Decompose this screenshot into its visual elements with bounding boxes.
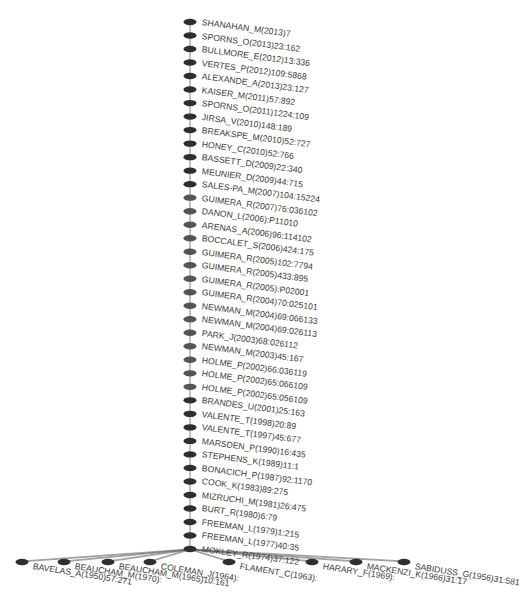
graph-node[interactable] bbox=[184, 546, 197, 552]
graph-node[interactable] bbox=[184, 113, 197, 119]
graph-node[interactable] bbox=[184, 330, 197, 336]
graph-node[interactable] bbox=[184, 465, 197, 471]
graph-node[interactable] bbox=[184, 19, 197, 25]
graph-node[interactable] bbox=[184, 100, 197, 106]
graph-node[interactable] bbox=[184, 73, 197, 79]
graph-node[interactable] bbox=[184, 86, 197, 92]
graph-node[interactable] bbox=[184, 370, 197, 376]
graph-node[interactable] bbox=[184, 438, 197, 444]
graph-node[interactable] bbox=[184, 519, 197, 525]
graph-node[interactable] bbox=[184, 384, 197, 390]
graph-node[interactable] bbox=[184, 262, 197, 268]
leaf-node[interactable] bbox=[350, 559, 363, 565]
graph-node[interactable] bbox=[184, 505, 197, 511]
graph-node[interactable] bbox=[184, 46, 197, 52]
leaf-node[interactable] bbox=[102, 559, 115, 565]
graph-node[interactable] bbox=[184, 343, 197, 349]
graph-node[interactable] bbox=[184, 357, 197, 363]
leaf-node[interactable] bbox=[398, 559, 411, 565]
graph-node[interactable] bbox=[184, 397, 197, 403]
graph-node[interactable] bbox=[184, 532, 197, 538]
leaf-node[interactable] bbox=[223, 559, 236, 565]
graph-node[interactable] bbox=[184, 235, 197, 241]
graph-node[interactable] bbox=[184, 140, 197, 146]
graph-node[interactable] bbox=[184, 59, 197, 65]
graph-node[interactable] bbox=[184, 411, 197, 417]
graph-node[interactable] bbox=[184, 478, 197, 484]
graph-node[interactable] bbox=[184, 167, 197, 173]
graph-node[interactable] bbox=[184, 289, 197, 295]
graph-node[interactable] bbox=[184, 208, 197, 214]
graph-node[interactable] bbox=[184, 303, 197, 309]
graph-node[interactable] bbox=[184, 451, 197, 457]
graph-node[interactable] bbox=[184, 424, 197, 430]
graph-node[interactable] bbox=[184, 249, 197, 255]
leaf-node[interactable] bbox=[306, 559, 319, 565]
graph-node[interactable] bbox=[184, 154, 197, 160]
graph-node[interactable] bbox=[184, 32, 197, 38]
graph-node[interactable] bbox=[184, 181, 197, 187]
graph-node[interactable] bbox=[184, 316, 197, 322]
graph-node[interactable] bbox=[184, 127, 197, 133]
leaf-node[interactable] bbox=[16, 559, 29, 565]
graph-node[interactable] bbox=[184, 221, 197, 227]
graph-node[interactable] bbox=[184, 194, 197, 200]
graph-node[interactable] bbox=[184, 276, 197, 282]
citation-network-diagram: SHANAHAN_M(2013)7SPORNS_O(2013)23:162BUL… bbox=[0, 0, 520, 606]
graph-node[interactable] bbox=[184, 492, 197, 498]
